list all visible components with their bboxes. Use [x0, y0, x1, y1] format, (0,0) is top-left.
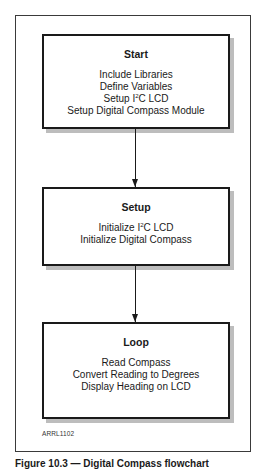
box-line: Include Libraries — [44, 69, 228, 81]
flowchart-box-start: Start Include Libraries Define Variables… — [42, 34, 230, 129]
box-line: Setup Digital Compass Module — [44, 105, 228, 117]
box-line: Setup I2C LCD — [44, 93, 228, 105]
arrow-setup-to-loop — [135, 266, 136, 322]
figure-id-label: ARRL1102 — [42, 430, 74, 437]
box-title: Loop — [44, 336, 228, 348]
arrowhead-icon — [132, 314, 138, 322]
box-title: Start — [44, 48, 228, 60]
arrow-start-to-setup — [135, 129, 136, 187]
box-line: Initialize I2C LCD — [44, 222, 228, 234]
arrowhead-icon — [132, 179, 138, 187]
flowchart-box-setup: Setup Initialize I2C LCD Initialize Digi… — [42, 187, 230, 266]
box-line: Display Heading on LCD — [44, 381, 228, 393]
box-line: Initialize Digital Compass — [44, 234, 228, 246]
figure-caption: Figure 10.3 — Digital Compass flowchart — [15, 458, 209, 469]
flowchart-box-loop: Loop Read Compass Convert Reading to Deg… — [42, 322, 230, 419]
box-title: Setup — [44, 201, 228, 213]
box-line: Convert Reading to Degrees — [44, 369, 228, 381]
box-line: Read Compass — [44, 357, 228, 369]
box-line: Define Variables — [44, 81, 228, 93]
